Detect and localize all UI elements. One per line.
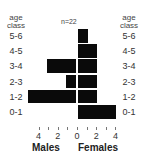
age-class-label-left: 4-5 (3, 46, 29, 56)
axis-title-class: class (116, 22, 142, 30)
x-tick (106, 127, 107, 130)
x-tick-label: 2 (53, 131, 63, 141)
male-bar (28, 90, 76, 104)
age-class-label-right: 5-6 (116, 31, 142, 41)
left-axis-title: age class (3, 14, 29, 30)
females-label: Females (78, 142, 118, 153)
x-tick (77, 127, 78, 130)
female-bar (78, 75, 97, 89)
x-tick-label: 4 (110, 131, 120, 141)
age-class-label-left: 5-6 (3, 31, 29, 41)
x-tick (87, 127, 88, 130)
x-tick (58, 127, 59, 130)
female-bar (78, 90, 97, 104)
x-tick (96, 127, 97, 130)
age-class-label-right: 4-5 (116, 46, 142, 56)
x-tick (39, 127, 40, 130)
age-class-label-right: 0-1 (116, 107, 142, 117)
age-class-label-left: 3-4 (3, 61, 29, 71)
female-bar (78, 44, 97, 58)
age-class-label-left: 0-1 (3, 107, 29, 117)
female-bar (78, 105, 116, 119)
x-tick (48, 127, 49, 130)
x-tick (67, 127, 68, 130)
female-bar (78, 59, 97, 73)
male-bar (47, 59, 76, 73)
x-tick (115, 127, 116, 130)
axis-title-class: class (3, 22, 29, 30)
male-bar (66, 75, 76, 89)
sample-size-label: n=22 (61, 18, 77, 25)
age-class-label-left: 1-2 (3, 92, 29, 102)
x-tick-label: 4 (34, 131, 44, 141)
age-class-label-left: 2-3 (3, 77, 29, 87)
age-class-label-right: 1-2 (116, 92, 142, 102)
males-label: Males (32, 142, 60, 153)
age-class-label-right: 3-4 (116, 61, 142, 71)
x-tick-label: 2 (91, 131, 101, 141)
age-class-label-right: 2-3 (116, 77, 142, 87)
female-bar (78, 29, 88, 43)
right-axis-title: age class (116, 14, 142, 30)
x-tick-label: 0 (72, 131, 82, 141)
